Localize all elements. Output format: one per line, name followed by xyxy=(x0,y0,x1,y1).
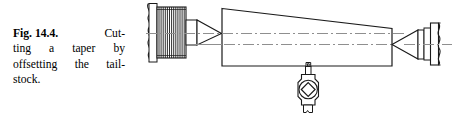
workpiece-taper xyxy=(222,9,392,67)
figure-panel: Fig. 14.4.Cut- ting a taper by offsettin… xyxy=(0,0,466,116)
live-center xyxy=(197,20,222,45)
spindle-flange xyxy=(149,4,157,63)
tool-post-neck xyxy=(306,67,312,75)
tool-shank-foot xyxy=(304,105,313,113)
taper-turning-diagram xyxy=(0,0,466,116)
thread-hatching-icon xyxy=(159,7,184,58)
spindle-shoulder xyxy=(186,20,197,45)
